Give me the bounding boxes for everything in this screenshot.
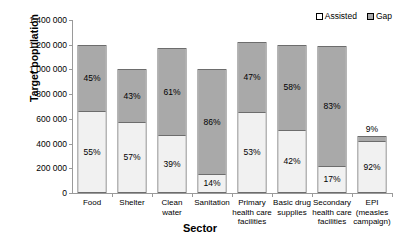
bar-group: 9%92% (352, 20, 392, 193)
x-axis-category-label-line: EPI (352, 198, 392, 208)
stacked-bar[interactable]: 45%55% (78, 45, 107, 193)
stacked-bar[interactable]: 43%57% (118, 69, 147, 193)
x-axis-category-label: Sanitation (192, 198, 232, 208)
x-axis-category-label: Basic drugsupplies (272, 198, 312, 217)
bar-segment-label-gap: 58% (283, 83, 300, 92)
x-axis-category-label-line: water (152, 208, 192, 218)
bar-segment-gap[interactable]: 61% (159, 49, 186, 136)
y-axis-tick-label: 1 000 000 (8, 64, 72, 74)
bar-segment-label-assisted: 39% (163, 160, 180, 169)
bar-segment-label-gap: 47% (243, 73, 260, 82)
plot-area: 0200 000400 000600 000800 0001 000 0001 … (72, 20, 392, 193)
x-axis-category-label-line: Secondary (312, 198, 352, 208)
x-axis-tick-mark (152, 193, 153, 197)
bar-segment-gap[interactable]: 45% (79, 46, 106, 112)
bar-segment-label-gap: 43% (123, 92, 140, 101)
x-axis-category-label-line: supplies (272, 208, 312, 218)
bar-group: 47%53% (232, 20, 272, 193)
x-axis-category-label-line: health care (312, 208, 352, 218)
x-axis-category-label: Cleanwater (152, 198, 192, 217)
x-axis-tick-mark (112, 193, 113, 197)
stacked-bar[interactable]: 9%92% (358, 136, 387, 193)
y-axis-tick-mark (69, 193, 72, 194)
x-axis-tick-mark (392, 193, 393, 197)
bar-segment-label-assisted: 14% (203, 179, 220, 188)
stacked-bar[interactable]: 61%39% (158, 48, 187, 193)
bar-segment-assisted[interactable]: 17% (319, 167, 346, 192)
bar-segment-assisted[interactable]: 92% (359, 142, 386, 192)
bar-segment-gap[interactable]: 47% (239, 43, 266, 113)
bar-segment-assisted[interactable]: 42% (279, 131, 306, 192)
bar-segment-label-gap: 83% (323, 102, 340, 111)
stacked-bar[interactable]: 58%42% (278, 45, 307, 193)
y-axis-tick-label: 600 000 (8, 114, 72, 124)
bar-segment-label-assisted: 55% (83, 148, 100, 157)
bar-group: 61%39% (152, 20, 192, 193)
bar-segment-assisted[interactable]: 53% (239, 113, 266, 192)
bar-segment-label-gap: 86% (203, 118, 220, 127)
bar-group: 83%17% (312, 20, 352, 193)
x-axis-tick-mark (272, 193, 273, 197)
y-axis-tick-label: 800 000 (8, 89, 72, 99)
x-axis-tick-mark (192, 193, 193, 197)
bar-segment-gap[interactable]: 86% (199, 70, 226, 175)
bar-segment-assisted[interactable]: 14% (199, 175, 226, 192)
x-axis-category-label-line: (measles (352, 208, 392, 218)
legend-swatch-assisted-icon (316, 13, 323, 20)
bar-segment-gap[interactable]: 58% (279, 46, 306, 131)
x-axis-category-label: Food (72, 198, 112, 208)
stacked-bar[interactable]: 86%14% (198, 69, 227, 193)
stacked-bar-chart: Assisted Gap Target population 0200 0004… (0, 0, 400, 248)
bar-segment-assisted[interactable]: 39% (159, 136, 186, 192)
x-axis-category-label: Shelter (112, 198, 152, 208)
bar-segment-label-assisted: 57% (123, 153, 140, 162)
y-axis-tick-label: 1 400 000 (8, 15, 72, 25)
x-axis-category-label-line: health care (232, 208, 272, 218)
x-axis-category-label-line: Food (72, 198, 112, 208)
x-axis-category-label-line: Basic drug (272, 198, 312, 208)
bar-segment-label-gap: 9% (366, 125, 378, 134)
bars-container: 45%55%43%57%61%39%86%14%47%53%58%42%83%1… (72, 20, 392, 193)
x-axis-category-label-line: Primary (232, 198, 272, 208)
x-axis-category-label-line: Sanitation (192, 198, 232, 208)
stacked-bar[interactable]: 83%17% (318, 46, 347, 193)
bar-segment-label-assisted: 17% (323, 175, 340, 184)
y-axis-tick-label: 200 000 (8, 163, 72, 173)
bar-group: 86%14% (192, 20, 232, 193)
stacked-bar[interactable]: 47%53% (238, 42, 267, 193)
bar-group: 45%55% (72, 20, 112, 193)
bar-group: 58%42% (272, 20, 312, 193)
y-axis-tick-label: 0 (8, 188, 72, 198)
bar-segment-label-assisted: 42% (283, 157, 300, 166)
bar-segment-label-gap: 45% (83, 74, 100, 83)
bar-segment-label-assisted: 53% (243, 148, 260, 157)
x-axis-tick-mark (232, 193, 233, 197)
bar-segment-gap[interactable]: 83% (319, 47, 346, 167)
legend-swatch-gap-icon (367, 13, 374, 20)
x-axis-tick-mark (312, 193, 313, 197)
bar-segment-assisted[interactable]: 55% (79, 112, 106, 192)
y-axis-tick-label: 400 000 (8, 139, 72, 149)
x-axis-tick-mark (352, 193, 353, 197)
x-axis-title: Sector (0, 222, 400, 234)
bar-segment-label-assisted: 92% (363, 163, 380, 172)
x-axis-category-label-line: Shelter (112, 198, 152, 208)
bar-segment-gap[interactable]: 43% (119, 70, 146, 122)
bar-segment-assisted[interactable]: 57% (119, 123, 146, 192)
x-axis-category-label-line: Clean (152, 198, 192, 208)
y-axis-tick-label: 1 200 000 (8, 40, 72, 50)
bar-segment-label-gap: 61% (163, 88, 180, 97)
bar-group: 43%57% (112, 20, 152, 193)
